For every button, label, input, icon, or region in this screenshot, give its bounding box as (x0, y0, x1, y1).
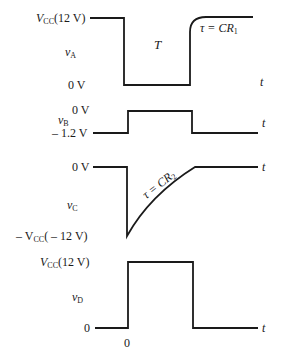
va-time-constant-label: τ = CR1 (200, 22, 238, 38)
waveform-vb (93, 111, 258, 133)
vc-high-level-label: 0 V (72, 161, 89, 173)
vc-signal-label: vC (67, 199, 78, 215)
vb-time-axis-label: t (262, 117, 265, 129)
vc-time-axis-label: t (262, 161, 265, 173)
va-high-level-label: VCC(12 V) (36, 12, 85, 28)
time-origin-label: 0 (124, 337, 130, 349)
vd-signal-label: vD (72, 291, 83, 307)
va-time-axis-label: t (260, 76, 263, 88)
vb-low-level-label: – 1.2 V (52, 127, 87, 139)
va-low-level-label: 0 V (68, 79, 85, 91)
vc-low-level-label: – VCC( – 12 V) (16, 230, 88, 246)
vd-high-level-label: VCC(12 V) (40, 256, 89, 272)
waveform-vd (95, 262, 258, 328)
vb-high-level-label: 0 V (72, 104, 89, 116)
waveform-diagram (0, 0, 281, 356)
vd-time-axis-label: t (262, 322, 265, 334)
vd-low-level-label: 0 (84, 322, 90, 334)
va-signal-label: vA (65, 46, 76, 62)
pulse-width-label: T (154, 39, 161, 51)
